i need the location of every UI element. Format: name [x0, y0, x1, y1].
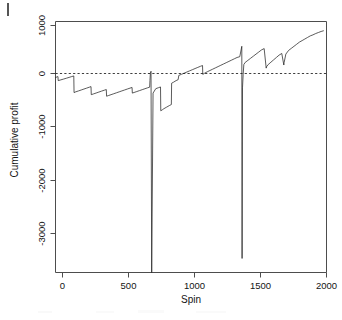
x-tick-label-1500: 1500 [250, 280, 271, 291]
page-scan-smudge [38, 311, 52, 313]
page-scan-smudge-2 [96, 311, 114, 313]
cumulative-profit-chart: 0 500 1000 1500 2000 1000 0 -1000 -2000 … [0, 0, 342, 320]
x-axis-title: Spin [181, 294, 201, 305]
y-tick-label-neg1000: -1000 [36, 114, 47, 138]
x-tick-label-2000: 2000 [316, 280, 337, 291]
x-tick-label-0: 0 [60, 280, 65, 291]
page-scan-smudge-4 [196, 311, 226, 313]
page-edge-mark [7, 3, 9, 16]
y-tick-label-1000: 1000 [36, 15, 47, 36]
figure-container: 0 500 1000 1500 2000 1000 0 -1000 -2000 … [0, 0, 342, 320]
y-tick-label-neg3000: -3000 [36, 221, 47, 245]
page-scan-smudge-3 [138, 310, 164, 313]
y-tick-label-0: 0 [36, 71, 47, 76]
x-tick-label-500: 500 [121, 280, 137, 291]
y-tick-label-neg2000: -2000 [36, 168, 47, 192]
x-tick-label-1000: 1000 [184, 280, 205, 291]
y-axis-title: Cumulative profit [9, 102, 20, 177]
